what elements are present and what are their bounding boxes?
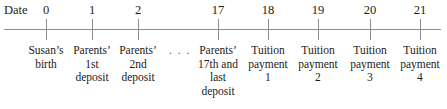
timeline-gap-ellipsis: . . .	[169, 44, 191, 58]
tick-number: 20	[364, 3, 377, 17]
tick-number: 17	[212, 3, 225, 17]
tick-number: 21	[414, 3, 427, 17]
tick-caption-line: 1st	[73, 58, 111, 72]
tick-caption: Tuitionpayment4	[400, 44, 440, 85]
tick-caption-line: birth	[28, 58, 63, 72]
tick-caption: Tuitionpayment2	[298, 44, 338, 85]
tick-number: 2	[135, 3, 141, 17]
tick-mark	[92, 19, 93, 40]
timeline-figure: Date 0Susan’sbirth1Parents’1stdeposit2Pa…	[0, 0, 447, 109]
tick-caption-line: Tuition	[248, 44, 288, 58]
tick-caption-line: 4	[400, 71, 440, 85]
tick-caption-line: Parents’	[73, 44, 111, 58]
tick-caption-line: deposit	[198, 85, 238, 99]
axis-label-date: Date	[4, 3, 28, 17]
tick-number: 19	[312, 3, 325, 17]
tick-caption-line: payment	[298, 58, 338, 72]
tick-number: 18	[262, 3, 275, 17]
tick-caption-line: 2nd	[119, 58, 157, 72]
tick-caption-line: 2	[298, 71, 338, 85]
tick-mark	[268, 19, 269, 40]
tick-number: 0	[43, 3, 49, 17]
timeline-axis-line	[4, 29, 441, 30]
tick-caption-line: Tuition	[350, 44, 390, 58]
tick-caption: Parents’2nddeposit	[119, 44, 157, 85]
tick-mark	[46, 19, 47, 40]
tick-caption: Susan’sbirth	[28, 44, 63, 71]
tick-caption-line: payment	[400, 58, 440, 72]
tick-caption: Parents’1stdeposit	[73, 44, 111, 85]
tick-caption-line: 1	[248, 71, 288, 85]
tick-mark	[218, 19, 219, 40]
tick-caption: Tuitionpayment3	[350, 44, 390, 85]
tick-caption-line: payment	[248, 58, 288, 72]
tick-mark	[318, 19, 319, 40]
tick-mark	[420, 19, 421, 40]
tick-caption-line: deposit	[119, 71, 157, 85]
tick-caption-line: Tuition	[400, 44, 440, 58]
tick-caption-line: last	[198, 71, 238, 85]
tick-caption-line: Parents’	[198, 44, 238, 58]
tick-caption: Tuitionpayment1	[248, 44, 288, 85]
tick-caption-line: 17th and	[198, 58, 238, 72]
tick-caption-line: 3	[350, 71, 390, 85]
tick-caption-line: Parents’	[119, 44, 157, 58]
tick-mark	[370, 19, 371, 40]
tick-caption: Parents’17th andlastdeposit	[198, 44, 238, 98]
tick-mark	[138, 19, 139, 40]
tick-caption-line: Susan’s	[28, 44, 63, 58]
tick-caption-line: Tuition	[298, 44, 338, 58]
tick-caption-line: deposit	[73, 71, 111, 85]
tick-caption-line: payment	[350, 58, 390, 72]
tick-number: 1	[89, 3, 95, 17]
